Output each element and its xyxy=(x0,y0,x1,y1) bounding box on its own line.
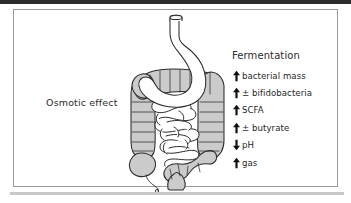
legend-item-gas: gas xyxy=(232,154,337,171)
legend-item-bifidobacteria: ± bifidobacteria xyxy=(232,84,337,101)
legend-item-ph: pH xyxy=(232,137,337,154)
small-intestine-shape xyxy=(152,100,199,166)
arrow-up-icon xyxy=(232,70,241,82)
appendix-shape xyxy=(146,175,158,191)
legend-item-label: SCFA xyxy=(242,105,264,115)
legend-item-scfa: SCFA xyxy=(232,102,337,119)
legend-item-label: pH xyxy=(242,140,254,150)
fermentation-legend: Fermentation bacterial mass ± bifidobact… xyxy=(232,50,337,171)
arrow-up-icon xyxy=(232,104,241,116)
arrow-down-icon xyxy=(232,139,241,151)
legend-item-butyrate: ± butyrate xyxy=(232,119,337,136)
legend-item-label: ± bifidobacteria xyxy=(242,88,312,98)
arrow-up-icon xyxy=(232,157,241,169)
gi-tract-illustration xyxy=(122,14,242,192)
arrow-up-icon xyxy=(232,87,241,99)
osmotic-effect-label: Osmotic effect xyxy=(46,97,118,108)
legend-item-label: bacterial mass xyxy=(242,71,306,81)
stomach-shape xyxy=(139,15,206,107)
arrow-up-icon xyxy=(232,122,241,134)
figure-canvas: Osmotic effect xyxy=(14,10,337,186)
legend-item-bacterial-mass: bacterial mass xyxy=(232,67,337,84)
figure-top-border-gap xyxy=(0,4,351,5)
fermentation-heading: Fermentation xyxy=(232,50,337,61)
legend-item-label: ± butyrate xyxy=(242,123,289,133)
figure-panel: Osmotic effect xyxy=(0,0,351,203)
legend-item-label: gas xyxy=(242,158,257,168)
figure-bottom-border xyxy=(10,192,344,195)
